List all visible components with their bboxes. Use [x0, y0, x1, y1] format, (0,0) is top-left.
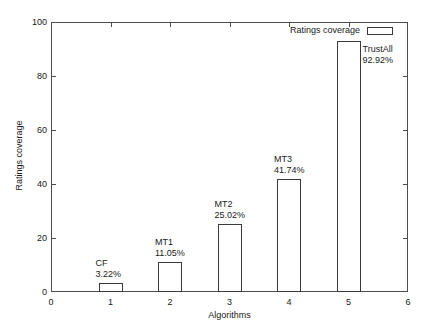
bar-cf: [99, 283, 123, 292]
y-tick-mark-right: [403, 238, 408, 239]
x-tick-label: 4: [277, 298, 301, 307]
y-tick-label: 0: [14, 288, 47, 297]
y-axis-title: Ratings coverage: [15, 106, 24, 206]
y-tick-text: 20: [19, 234, 47, 243]
bar-annotation-trustall: TrustAll92.92%: [363, 44, 394, 66]
legend-entry-label: Ratings coverage: [290, 26, 360, 35]
bar-annotation-name: MT2: [215, 199, 246, 210]
bar-annotation-mt1: MT111.05%: [155, 237, 185, 259]
bar-annotation-value: 25.02%: [215, 210, 246, 221]
y-tick-mark: [51, 76, 56, 77]
x-tick-label: 5: [337, 298, 361, 307]
y-tick-label: 100: [14, 18, 47, 27]
bar-annotation-value: 3.22%: [96, 269, 122, 280]
bar-trustall: [337, 41, 361, 292]
x-tick-mark-top: [230, 22, 231, 27]
bar-annotation-name: TrustAll: [363, 44, 394, 55]
x-tick-label: 0: [39, 298, 63, 307]
bar-mt1: [158, 262, 182, 292]
bar-annotation-mt3: MT341.74%: [274, 154, 305, 176]
x-tick-label: 1: [99, 298, 123, 307]
y-tick-mark: [51, 130, 56, 131]
bar-mt2: [218, 224, 242, 292]
y-tick-text: 0: [19, 288, 47, 297]
y-tick-mark-right: [403, 184, 408, 185]
y-tick-text: 100: [19, 18, 47, 27]
bar-annotation-value: 11.05%: [155, 248, 185, 259]
y-tick-mark-right: [403, 130, 408, 131]
legend: Ratings coverage: [290, 24, 393, 37]
legend-swatch-icon: [367, 27, 393, 35]
x-tick-mark-top: [170, 22, 171, 27]
bar-annotation-value: 92.92%: [363, 55, 394, 66]
x-axis-title: Algorithms: [51, 311, 408, 320]
x-tick-label: 6: [396, 298, 420, 307]
bar-annotation-name: MT3: [274, 154, 305, 165]
bar-annotation-cf: CF3.22%: [96, 258, 122, 280]
bar-mt3: [277, 179, 301, 292]
x-tick-label: 2: [158, 298, 182, 307]
y-tick-text: 80: [19, 72, 47, 81]
x-tick-mark-top: [111, 22, 112, 27]
y-tick-mark: [51, 184, 56, 185]
bar-annotation-name: CF: [96, 258, 122, 269]
bar-annotation-name: MT1: [155, 237, 185, 248]
y-tick-label: 80: [14, 72, 47, 81]
y-tick-label: 20: [14, 234, 47, 243]
y-tick-mark: [51, 238, 56, 239]
x-tick-label: 3: [218, 298, 242, 307]
y-tick-mark-right: [403, 76, 408, 77]
ratings-coverage-bar-chart: 020406080100 0123456 Ratings coverage Al…: [0, 0, 436, 330]
bar-annotation-mt2: MT225.02%: [215, 199, 246, 221]
bar-annotation-value: 41.74%: [274, 165, 305, 176]
